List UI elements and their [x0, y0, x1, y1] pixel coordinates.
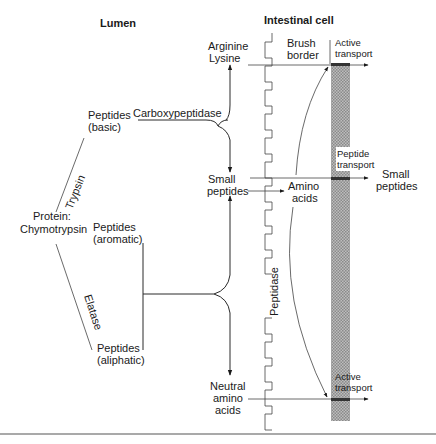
- small-peptides-out-sub: peptides: [376, 180, 418, 192]
- small-peptides-sub: peptides: [207, 185, 249, 197]
- chymotrypsin-label: Chymotrypsin: [20, 223, 87, 235]
- cell-acids-label: acids: [292, 192, 318, 204]
- cell-amino-label: Amino: [288, 180, 319, 192]
- active-transport-top-label: Active: [335, 37, 361, 48]
- elastase-label: Elatase: [82, 293, 105, 332]
- peptides-basic-sub: (basic): [88, 121, 121, 133]
- peptidase-label: Peptidase: [268, 267, 280, 316]
- amino-acids-down-arrow: [289, 207, 327, 397]
- lysine-label: Lysine: [209, 52, 240, 64]
- intestinal-cell-header: Intestinal cell: [264, 14, 334, 26]
- arrow-to-arginine-lysine: [226, 65, 230, 120]
- border-label: border: [287, 49, 319, 61]
- protein-label: Protein:: [33, 210, 71, 222]
- brush-border-microvilli: [265, 33, 272, 430]
- amino-acids-up-arrow: [296, 67, 328, 175]
- peptide-transport-sub: transport: [337, 159, 375, 170]
- active-transport-bottom-label: Active: [335, 371, 361, 382]
- active-transport-bottom-sub: transport: [335, 382, 373, 393]
- arginine-label: Arginine: [208, 40, 248, 52]
- amino-label: amino: [213, 392, 243, 404]
- protein-digestion-diagram: Lumen Intestinal cell Peptidase Protein:…: [0, 0, 436, 444]
- small-peptides-out-label: Small: [382, 168, 410, 180]
- small-peptides-label: Small: [208, 173, 236, 185]
- brush-label: Brush: [287, 37, 316, 49]
- arrow-to-small-peptides-top: [218, 126, 230, 172]
- peptides-aromatic-label: Peptides: [93, 221, 136, 233]
- neutral-label: Neutral: [210, 380, 245, 392]
- peptide-transport-label: Peptide: [337, 148, 369, 159]
- lumen-header: Lumen: [100, 17, 136, 29]
- arrow-to-small-peptides-bottom: [214, 196, 230, 294]
- peptides-aliphatic-sub: (aliphatic): [97, 354, 145, 366]
- active-transporter-bottom: [331, 398, 350, 401]
- basolateral-membrane-band: [331, 65, 350, 421]
- peptides-basic-label: Peptides: [88, 109, 131, 121]
- trypsin-label: Trypsin: [63, 173, 87, 211]
- peptides-aliphatic-label: Peptides: [97, 342, 140, 354]
- peptide-transporter: [331, 177, 350, 180]
- active-transport-top-sub: transport: [335, 48, 373, 59]
- peptides-aromatic-sub: (aromatic): [93, 233, 143, 245]
- arrow-to-neutral-amino-acids: [214, 294, 230, 375]
- carboxypeptidase-line: [138, 120, 228, 126]
- active-transporter-top: [331, 63, 350, 66]
- acids-label: acids: [215, 404, 241, 416]
- carboxypeptidase-label: Carboxypeptidase: [133, 107, 222, 119]
